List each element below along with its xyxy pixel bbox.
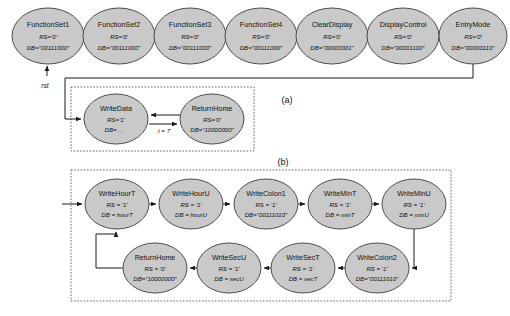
node-rs: RS='0' (464, 33, 483, 40)
node-db: DB = hourU (175, 211, 208, 218)
node-db: DB="00001100" (381, 44, 425, 51)
node-functionset3[interactable]: FunctionSet3 RS='0' DB="00111000" (154, 8, 226, 64)
caption-a: (a) (282, 95, 293, 105)
node-title: WriteHourU (172, 189, 209, 198)
node-title: DisplayControl (380, 20, 427, 29)
node-returnhome-b[interactable]: ReturnHome RS = '0' DB="10000000" (123, 243, 187, 293)
node-functionset2[interactable]: FunctionSet2 RS='0' DB="00111000" (83, 8, 155, 64)
node-db: DB="00111000" (98, 44, 141, 51)
node-db: DB = minU (399, 211, 429, 218)
node-writecolon1[interactable]: WriteColon1 RS = '1' DB="00111010" (234, 179, 298, 229)
node-rs: RS='0' (394, 33, 413, 40)
node-title: FunctionSet2 (98, 20, 140, 29)
edge-writeminu-writecolon2 (412, 229, 414, 268)
node-writesect[interactable]: WriteSecT RS = '1' DB = secT (271, 243, 335, 293)
node-writehourt[interactable]: WriteHourT RS = '1' DB = hourT (85, 179, 149, 229)
node-db: DB="10000000" (190, 126, 234, 133)
node-db: DB = minT (326, 211, 356, 218)
node-writemint[interactable]: WriteMinT RS = '1' DB = minT (308, 179, 372, 229)
node-rs: RS = '1' (255, 201, 277, 208)
node-db: DB="00111000" (169, 44, 212, 51)
node-db: DB= ... (105, 126, 124, 133)
node-functionset4[interactable]: FunctionSet4 RS='0' DB="00111000" (225, 8, 297, 64)
node-db: DB = hourT (101, 211, 134, 218)
node-title: WriteMinT (324, 189, 357, 198)
node-writesecu[interactable]: WriteSecU RS = '1' DB = secU (197, 243, 261, 293)
node-rs: RS='0' (39, 33, 58, 40)
node-title: WriteHourT (99, 189, 136, 198)
node-title: ClearDisplay (312, 20, 353, 29)
node-rs: RS = '1' (366, 265, 388, 272)
node-rs: RS='0' (203, 116, 222, 123)
node-title: FunctionSet3 (169, 20, 211, 29)
edge-label-t-equals-7: t = 7 (158, 127, 171, 134)
node-rs: RS = '1' (329, 201, 351, 208)
node-writedata[interactable]: WriteData RS='1' DB= ... (84, 94, 148, 144)
node-rs: RS = '1' (106, 201, 128, 208)
node-title: FunctionSet4 (240, 20, 282, 29)
reset-arrow: rst (41, 66, 49, 89)
node-title: WriteColon2 (357, 253, 396, 262)
node-db: DB="00111000" (240, 44, 283, 51)
node-db: DB="00111010" (356, 275, 399, 282)
node-rs: RS = '0' (144, 265, 166, 272)
node-rs: RS='0' (252, 33, 271, 40)
caption-b: (b) (278, 157, 289, 167)
node-rs: RS='0' (110, 33, 129, 40)
node-title: ReturnHome (135, 253, 176, 262)
node-db: DB="10000000" (133, 275, 177, 282)
node-rs: RS='0' (323, 33, 342, 40)
node-rs: RS='1' (107, 116, 126, 123)
node-writeminu[interactable]: WriteMinU RS = '1' DB = minU (382, 179, 446, 229)
edge-returnhome-writehourt (96, 232, 123, 268)
state-machine-diagram: rst FunctionSet1 RS='0 (0, 0, 510, 316)
figure-canvas: rst FunctionSet1 RS='0 (0, 0, 510, 316)
node-writecolon2[interactable]: WriteColon2 RS = '1' DB="00111010" (345, 243, 409, 293)
node-title: WriteColon1 (246, 189, 285, 198)
node-title: EntryMode (456, 20, 491, 29)
node-rs: RS = '1' (292, 265, 314, 272)
node-db: DB="00000001" (310, 44, 354, 51)
node-title: WriteMinU (397, 189, 430, 198)
node-displaycontrol[interactable]: DisplayControl RS='0' DB="00001100" (367, 8, 439, 64)
node-title: WriteSecT (286, 253, 320, 262)
node-entrymode[interactable]: EntryMode RS='0' DB="00000110" (439, 8, 507, 64)
node-title: WriteSecU (212, 253, 246, 262)
node-db: DB = secT (289, 275, 319, 282)
node-title: ReturnHome (192, 104, 233, 113)
node-db: DB="00111010" (245, 211, 288, 218)
node-functionset1[interactable]: FunctionSet1 RS='0' DB="00111000" (12, 8, 84, 64)
node-returnhome-a[interactable]: ReturnHome RS='0' DB="10000000" (180, 94, 244, 144)
reset-label: rst (41, 82, 49, 89)
node-db: DB = secU (214, 275, 244, 282)
node-rs: RS = '1' (218, 265, 240, 272)
node-db: DB="00111000" (27, 44, 70, 51)
node-db: DB="00000110" (451, 44, 495, 51)
node-title: WriteData (100, 104, 132, 113)
node-rs: RS = '1' (180, 201, 202, 208)
node-title: FunctionSet1 (27, 20, 69, 29)
node-writehouru[interactable]: WriteHourU RS = '1' DB = hourU (159, 179, 223, 229)
node-rs: RS = '1' (403, 201, 425, 208)
node-rs: RS='0' (181, 33, 200, 40)
node-cleardisplay[interactable]: ClearDisplay RS='0' DB="00000001" (296, 8, 368, 64)
